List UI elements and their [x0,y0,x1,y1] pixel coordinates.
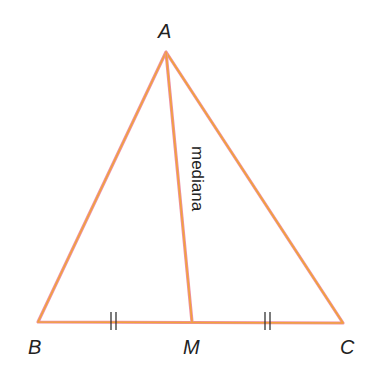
vertex-label-a: A [158,20,171,43]
triangle-diagram: A B M C mediana [0,0,381,368]
tick-marks-mc [265,312,270,330]
vertex-label-b: B [28,336,41,359]
vertex-label-c: C [340,336,354,359]
median-label: mediana [187,146,207,211]
vertex-label-m: M [183,336,200,359]
